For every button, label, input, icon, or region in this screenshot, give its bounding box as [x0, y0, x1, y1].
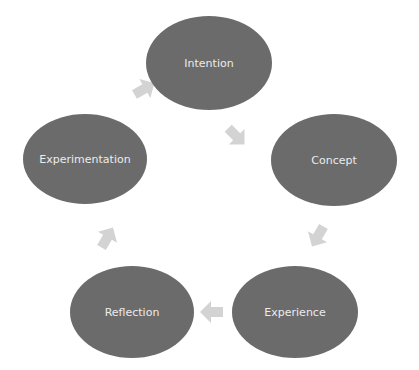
node-label-reflection: Reflection: [105, 306, 160, 319]
arrow-concept-to-experience: [302, 221, 333, 252]
node-intention: Intention: [146, 16, 272, 110]
arrow-reflection-to-experimentation: [92, 222, 123, 253]
arrow-intention-to-concept: [220, 120, 252, 152]
node-label-experimentation: Experimentation: [39, 153, 130, 166]
node-experimentation: Experimentation: [23, 114, 147, 204]
node-concept: Concept: [271, 114, 397, 206]
node-reflection: Reflection: [70, 266, 194, 358]
node-label-concept: Concept: [311, 154, 357, 167]
cycle-diagram: Intention Concept Experience Reflection …: [0, 0, 419, 370]
arrow-experience-to-reflection: [200, 301, 223, 323]
node-experience: Experience: [232, 266, 358, 358]
node-label-experience: Experience: [264, 306, 326, 319]
node-label-intention: Intention: [184, 57, 233, 70]
